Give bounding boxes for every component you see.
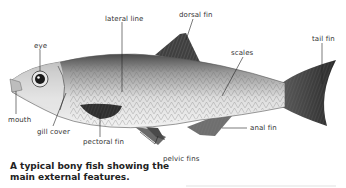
fish-diagram: eye lateral line dorsal fin scales tail … [0,0,346,188]
tail-fin-shape [282,60,336,126]
figure-caption: A typical bony fish showing the main ext… [10,161,180,183]
caption-line-2: main external features. [10,172,180,183]
label-gill-cover: gill cover [37,128,70,136]
label-lateral-line: lateral line [105,15,143,23]
label-pectoral-fin: pectoral fin [83,138,124,146]
fish-body-shape [10,54,285,128]
pelvic-fins-shape [135,127,166,145]
label-dorsal-fin: dorsal fin [179,11,213,19]
label-tail-fin: tail fin [312,35,335,43]
dorsal-fin-leader-line [186,19,193,40]
label-mouth: mouth [8,116,31,124]
label-anal-fin: anal fin [250,124,277,132]
label-scales: scales [231,49,253,57]
label-eye: eye [34,42,47,50]
caption-line-1: A typical bony fish showing the [10,161,180,172]
